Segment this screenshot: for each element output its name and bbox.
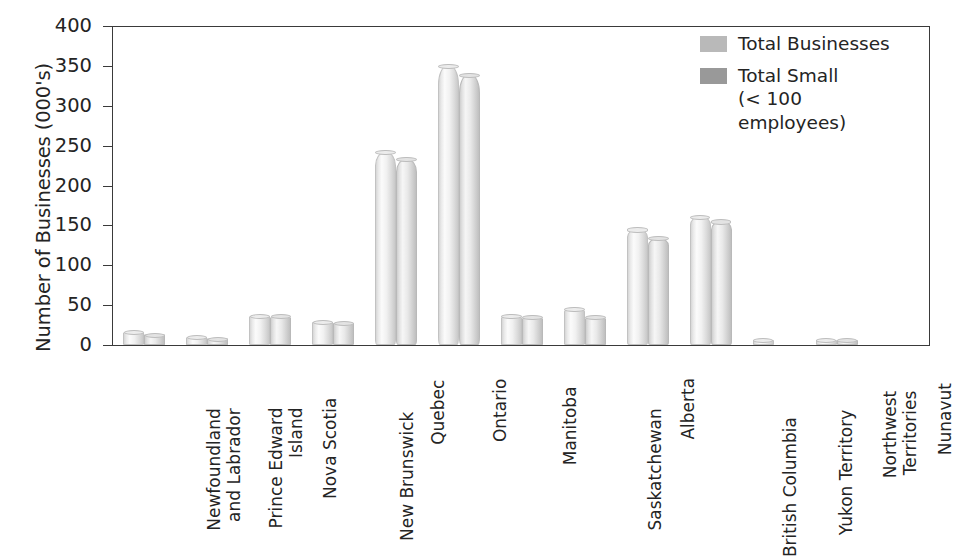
bar-top-cap <box>187 335 207 340</box>
bar-top-cap <box>711 219 731 224</box>
chart-legend: Total Businesses Total Small (< 100 empl… <box>700 32 915 143</box>
x-axis-tick-label: Yukon Territory <box>835 410 855 536</box>
bar <box>837 340 858 345</box>
bar-top-cap <box>459 73 479 78</box>
x-axis-tick-label: Quebec <box>428 380 448 445</box>
y-axis-tick-label: 0 <box>36 335 92 355</box>
bar-group <box>615 26 678 345</box>
bar-top-cap <box>208 337 228 342</box>
x-axis-label-line: Alberta <box>678 378 698 440</box>
bar <box>753 340 774 345</box>
bar-top-cap <box>145 333 165 338</box>
x-axis-label-line: Quebec <box>428 380 448 445</box>
bar-group <box>490 26 553 345</box>
legend-label-line1: Total Businesses <box>738 32 890 56</box>
legend-label-line1: Total Small <box>738 64 915 88</box>
bar-top-cap <box>334 321 354 326</box>
y-axis-tick-mark <box>103 345 112 346</box>
bar-top-cap <box>438 64 458 69</box>
bar-top-cap <box>585 315 605 320</box>
x-axis-tick-label: Nunavut <box>935 383 955 455</box>
bar-top-cap <box>648 236 668 241</box>
bar-top-cap <box>837 338 857 343</box>
legend-item-total-small: Total Small (< 100 employees) <box>700 64 915 135</box>
x-axis-tick-label: Manitoba <box>560 386 580 465</box>
bar <box>396 159 417 345</box>
bar <box>375 152 396 345</box>
bar-top-cap <box>564 307 584 312</box>
bar-group <box>112 26 175 345</box>
y-axis-tick-mark <box>103 146 112 147</box>
x-axis-label-line: Territories <box>899 391 919 478</box>
x-axis-label-line: Yukon Territory <box>835 410 855 536</box>
x-axis-label-line: British Columbia <box>780 417 800 557</box>
bar-group <box>427 26 490 345</box>
legend-label-line2: (< 100 employees) <box>738 87 915 134</box>
bar <box>207 338 228 345</box>
bar-group <box>301 26 364 345</box>
bar <box>522 317 543 345</box>
bar-group <box>175 26 238 345</box>
bar <box>333 322 354 345</box>
legend-swatch-total-small <box>700 68 727 84</box>
x-axis-tick-label: Ontario <box>490 379 510 442</box>
x-axis-label-line: Ontario <box>490 379 510 442</box>
bar <box>144 334 165 345</box>
bar-group <box>364 26 427 345</box>
x-axis-tick-label: British Columbia <box>780 417 800 557</box>
y-axis-tick-mark <box>103 225 112 226</box>
x-axis-label-line: Manitoba <box>560 386 580 465</box>
bar-top-cap <box>375 150 395 155</box>
bar <box>648 238 669 345</box>
bar <box>690 216 711 345</box>
legend-label-total-businesses: Total Businesses <box>738 32 890 56</box>
legend-label-total-small: Total Small (< 100 employees) <box>738 64 915 135</box>
bar-top-cap <box>250 314 270 319</box>
bar-top-cap <box>124 330 144 335</box>
x-axis-label-line: Newfoundland <box>205 408 225 531</box>
x-axis-labels: Newfoundlandand LabradorPrince EdwardIsl… <box>112 347 930 507</box>
y-axis-tick-mark <box>103 265 112 266</box>
bar-top-cap <box>501 314 521 319</box>
bar-top-cap <box>816 338 836 343</box>
y-axis-tick-label: 250 <box>36 136 92 156</box>
bar-group <box>238 26 301 345</box>
y-axis-tick-label: 350 <box>36 56 92 76</box>
bar-top-cap <box>271 314 291 319</box>
y-axis-tick-label: 200 <box>36 176 92 196</box>
x-axis-tick-label: NorthwestTerritories <box>879 391 919 478</box>
y-axis-tick-label: 150 <box>36 215 92 235</box>
bar <box>249 315 270 345</box>
bar-top-cap <box>753 338 773 343</box>
bar <box>501 316 522 345</box>
x-axis-label-line: Nunavut <box>935 383 955 455</box>
y-axis-tick-label: 400 <box>36 16 92 36</box>
y-axis-tick-mark <box>103 66 112 67</box>
legend-swatch-total-businesses <box>700 36 727 52</box>
x-axis-label-line: Prince Edward <box>267 407 287 528</box>
bar <box>312 321 333 345</box>
bar <box>123 332 144 345</box>
bar <box>711 221 732 345</box>
legend-item-total-businesses: Total Businesses <box>700 32 915 56</box>
x-axis-label-line: Island <box>287 407 307 528</box>
y-axis-tick-mark <box>103 106 112 107</box>
bar-top-cap <box>396 157 416 162</box>
bar <box>459 74 480 345</box>
bar <box>438 65 459 345</box>
x-axis-tick-label: Prince EdwardIsland <box>267 407 307 528</box>
bar <box>627 229 648 345</box>
bar-top-cap <box>627 227 647 232</box>
figure-caption <box>14 518 934 532</box>
x-axis-tick-label: Saskatchewan <box>645 408 665 530</box>
x-axis-tick-label: Newfoundlandand Labrador <box>205 408 245 531</box>
bar <box>564 309 585 345</box>
x-axis-tick-label: Nova Scotia <box>320 398 340 499</box>
bar-group <box>552 26 615 345</box>
y-axis-tick-label: 50 <box>36 295 92 315</box>
bar <box>585 317 606 345</box>
y-axis-tick-label: 100 <box>36 255 92 275</box>
bar-top-cap <box>313 320 333 325</box>
y-axis-tick-mark <box>103 186 112 187</box>
